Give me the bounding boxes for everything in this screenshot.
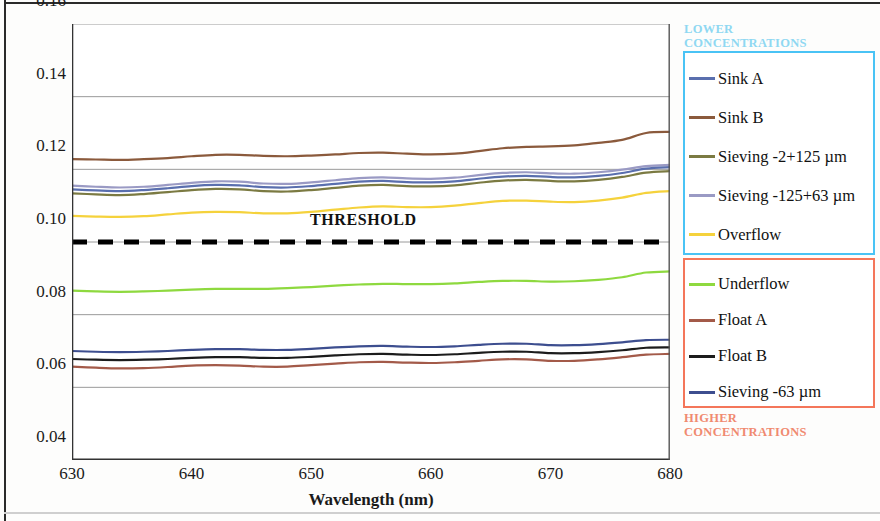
y-tick-label: 0.10	[10, 210, 66, 227]
x-tick-label: 630	[42, 464, 102, 484]
x-tick-label: 670	[520, 464, 580, 484]
legend-label: Float A	[718, 310, 767, 330]
legend-item[interactable]: Sink A	[689, 59, 873, 98]
legend-label: Sieving -63 µm	[718, 382, 821, 402]
x-axis-tick-labels: 630640650660670680	[72, 464, 670, 488]
y-tick-label: 0.08	[10, 283, 66, 300]
legend-item[interactable]: Sieving -125+63 µm	[689, 176, 873, 215]
page-border-bottom	[4, 512, 880, 514]
legend-swatch-icon	[689, 391, 715, 394]
page-border-top	[4, 2, 880, 4]
legend-lower-title: LOWER CONCENTRATIONS	[684, 23, 807, 50]
legend-item[interactable]: Sieving -2+125 µm	[689, 137, 873, 176]
legend-label: Overflow	[718, 225, 781, 245]
legend-label: Float B	[718, 346, 767, 366]
x-tick-label: 650	[281, 464, 341, 484]
figure-container: Reflectance (%) 0.160.140.120.100.080.06…	[0, 0, 880, 521]
legend-lower-items: Sink ASink BSieving -2+125 µmSieving -12…	[685, 53, 873, 253]
legend-higher-title-line1: HIGHER	[684, 412, 807, 426]
legend-swatch-icon	[689, 319, 715, 322]
legend-higher-title-line2: CONCENTRATIONS	[684, 426, 807, 440]
x-axis-title: Wavelength (nm)	[72, 490, 670, 510]
legend-label: Sink B	[718, 108, 763, 128]
y-axis-tick-labels: 0.160.140.120.100.080.060.04	[4, 0, 66, 436]
y-tick-label: 0.04	[10, 428, 66, 445]
x-tick-label: 640	[162, 464, 222, 484]
y-tick-label: 0.12	[10, 137, 66, 154]
legend-swatch-icon	[689, 283, 715, 286]
chart-svg	[72, 24, 670, 460]
x-tick-label: 660	[401, 464, 461, 484]
threshold-label: THRESHOLD	[310, 211, 417, 229]
legend-higher-title: HIGHER CONCENTRATIONS	[684, 412, 807, 439]
x-tick-label: 680	[640, 464, 700, 484]
legend-item[interactable]: Sieving -63 µm	[689, 374, 873, 410]
y-tick-label: 0.16	[10, 0, 66, 9]
legend-swatch-icon	[689, 155, 715, 158]
legend-label: Sink A	[718, 69, 763, 89]
legend-swatch-icon	[689, 355, 715, 358]
legend-lower-title-line1: LOWER	[684, 23, 807, 37]
legend-lower-title-line2: CONCENTRATIONS	[684, 37, 807, 51]
legend-item[interactable]: Overflow	[689, 215, 873, 254]
legend-label: Sieving -125+63 µm	[718, 186, 855, 206]
legend-item[interactable]: Float B	[689, 338, 873, 374]
legend-label: Sieving -2+125 µm	[718, 147, 847, 167]
legend-swatch-icon	[689, 233, 715, 236]
legend-item[interactable]: Float A	[689, 302, 873, 338]
legend-higher-box[interactable]: UnderflowFloat AFloat BSieving -63 µm	[683, 258, 875, 408]
legend-higher-items: UnderflowFloat AFloat BSieving -63 µm	[685, 260, 873, 406]
legend-lower-box[interactable]: Sink ASink BSieving -2+125 µmSieving -12…	[683, 51, 875, 255]
legend-item[interactable]: Sink B	[689, 98, 873, 137]
legend-label: Underflow	[718, 274, 789, 294]
legend-swatch-icon	[689, 116, 715, 119]
legend-swatch-icon	[689, 194, 715, 197]
legend-item[interactable]: Underflow	[689, 266, 873, 302]
y-tick-label: 0.14	[10, 65, 66, 82]
plot-area	[72, 24, 670, 460]
legend-swatch-icon	[689, 77, 715, 80]
y-tick-label: 0.06	[10, 355, 66, 372]
